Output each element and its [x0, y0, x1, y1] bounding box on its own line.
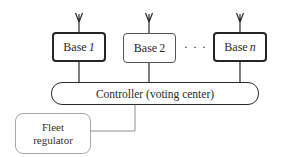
- diagram-canvas: Base 1 Base 2 · · · Base n Controller (v…: [0, 0, 282, 157]
- fleet-regulator-line2: regulator: [33, 134, 73, 147]
- base-1-box: Base 1: [52, 32, 106, 62]
- base-2-label: Base: [134, 41, 157, 56]
- fleet-regulator-box: Fleet regulator: [15, 113, 91, 154]
- antenna-icon: [146, 13, 153, 33]
- controller-label: Controller (voting center): [96, 88, 214, 100]
- controller-box: Controller (voting center): [51, 82, 259, 105]
- base-controller-links: [79, 62, 240, 83]
- base-n-box: Base n: [213, 32, 267, 62]
- fleet-regulator-line1: Fleet: [42, 121, 64, 134]
- base-n-index: n: [250, 40, 256, 55]
- base-2-box: Base 2: [123, 33, 176, 63]
- controller-fleet-link: [91, 104, 135, 131]
- ellipsis: · · ·: [184, 40, 207, 55]
- base-2-index: 2: [159, 41, 165, 56]
- antenna-icon: [76, 13, 83, 32]
- base-n-label: Base: [224, 40, 247, 55]
- base-1-label: Base: [63, 40, 86, 55]
- base-1-index: 1: [89, 40, 95, 55]
- antenna-icon: [237, 13, 244, 32]
